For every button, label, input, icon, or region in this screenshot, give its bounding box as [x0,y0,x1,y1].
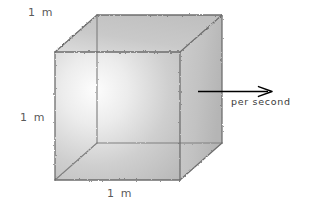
cube-faces [55,15,222,180]
dimension-label-left: 1 m [20,111,46,124]
cube-front-face [55,52,180,180]
cube-diagram-svg [0,0,309,214]
flow-rate-label: per second [231,96,291,107]
dimension-label-bottom: 1 m [107,187,133,200]
figure-canvas: 1 m 1 m 1 m per second [0,0,309,214]
dimension-label-top: 1 m [28,6,54,19]
